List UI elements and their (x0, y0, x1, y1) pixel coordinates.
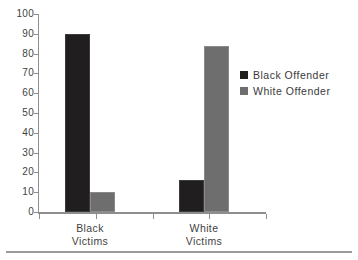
y-axis-tick-label: 90 (0, 29, 34, 39)
x-axis-category-label: WhiteVictims (149, 222, 259, 248)
legend-label: Black Offender (253, 69, 329, 81)
x-axis-tick (266, 214, 267, 219)
y-axis-tick-label: 40 (0, 128, 34, 138)
x-axis-tick (153, 214, 154, 219)
bar-chart-figure: 1009080706050403020100 BlackVictimsWhite… (0, 0, 358, 260)
legend-item-black-offender: Black Offender (240, 68, 330, 82)
y-axis-tick-label: 10 (0, 187, 34, 197)
bar-black-victims-white-offender (90, 192, 115, 212)
bar-white-victims-white-offender (204, 46, 229, 212)
bar-black-victims-black-offender (65, 34, 90, 212)
y-axis-tick-label: 60 (0, 88, 34, 98)
y-axis-tick-label: 70 (0, 68, 34, 78)
x-axis-category-label-line: Victims (35, 235, 145, 248)
bar-white-victims-black-offender (179, 180, 204, 212)
legend-swatch-icon (240, 87, 248, 95)
x-axis-category-label-line: Black (35, 222, 145, 235)
legend-item-white-offender: White Offender (240, 84, 330, 98)
y-axis-tick-label: 80 (0, 49, 34, 59)
x-axis-tick (209, 214, 210, 219)
legend-swatch-icon (240, 71, 248, 79)
legend-label: White Offender (253, 85, 330, 97)
x-axis-category-label: BlackVictims (35, 222, 145, 248)
y-axis-tick-label: 100 (0, 9, 34, 19)
x-axis-line (38, 212, 266, 214)
y-axis-tick-label: 20 (0, 167, 34, 177)
x-axis-category-label-line: Victims (149, 235, 259, 248)
y-axis-tick-label: 30 (0, 148, 34, 158)
chart-legend: Black Offender White Offender (240, 68, 330, 100)
bottom-divider (6, 251, 352, 253)
x-axis-tick (39, 214, 40, 219)
y-axis-tick-label: 50 (0, 108, 34, 118)
plot-area (39, 14, 266, 212)
x-axis-tick (96, 214, 97, 219)
y-axis-tick-label: 0 (0, 207, 34, 217)
x-axis-category-label-line: White (149, 222, 259, 235)
